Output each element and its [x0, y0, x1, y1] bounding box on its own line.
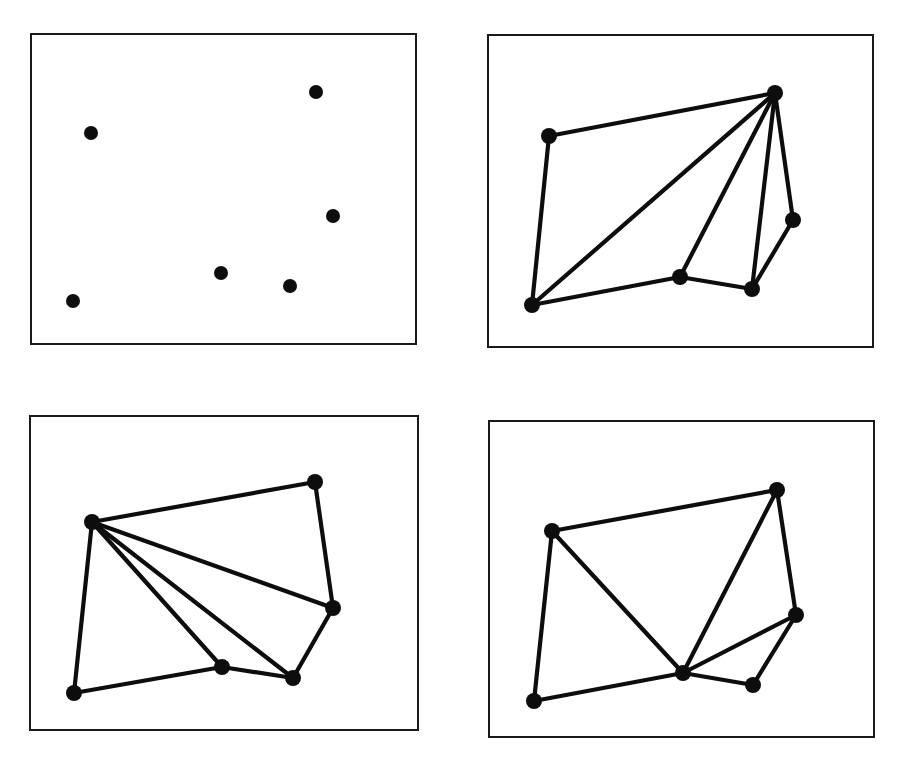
point-marker	[214, 266, 228, 280]
point-marker	[283, 279, 297, 293]
point-marker	[84, 126, 98, 140]
graph-edge	[532, 136, 549, 305]
graph-node	[66, 685, 82, 701]
graph-edge	[680, 93, 775, 277]
graph-node	[325, 600, 341, 616]
graph-edge	[534, 673, 683, 701]
panel-bottom-right	[475, 407, 888, 751]
graph-node	[767, 85, 783, 101]
graph-edge	[552, 490, 777, 531]
graph-fan-from-top-right-canvas	[474, 21, 887, 361]
graph-edge	[92, 482, 315, 522]
graph-node	[785, 212, 801, 228]
graph-edge	[549, 93, 775, 136]
panel-top-left	[17, 20, 430, 358]
graph-edge	[532, 93, 775, 305]
panel-border	[488, 35, 873, 347]
graph-edge	[293, 608, 333, 678]
graph-edge	[683, 490, 777, 673]
graph-fan-from-left-canvas	[16, 402, 432, 744]
point-marker	[309, 85, 323, 99]
graph-node	[285, 670, 301, 686]
graph-node	[544, 523, 560, 539]
graph-node	[744, 281, 760, 297]
graph-fan-from-center-canvas	[475, 407, 888, 751]
graph-node	[541, 128, 557, 144]
graph-edge	[92, 522, 293, 678]
graph-node	[307, 474, 323, 490]
graph-edge	[315, 482, 333, 608]
graph-node	[788, 607, 804, 623]
graph-edge	[552, 531, 683, 673]
point-marker-group	[66, 85, 340, 308]
graph-edge-group	[74, 482, 333, 693]
graph-edge	[680, 277, 752, 289]
graph-edge	[683, 673, 753, 685]
point-marker	[326, 209, 340, 223]
graph-node	[745, 677, 761, 693]
graph-node	[84, 514, 100, 530]
graph-node	[524, 297, 540, 313]
graph-edge	[532, 277, 680, 305]
graph-edge	[777, 490, 796, 615]
graph-node	[526, 693, 542, 709]
graph-node	[214, 659, 230, 675]
graph-edge	[534, 531, 552, 701]
graph-node	[675, 665, 691, 681]
graph-edge	[74, 522, 92, 693]
graph-edge	[74, 667, 222, 693]
graph-edge	[775, 93, 793, 220]
graph-node	[672, 269, 688, 285]
graph-edge-group	[534, 490, 796, 701]
point-marker	[66, 294, 80, 308]
graph-node	[769, 482, 785, 498]
figure-root	[0, 0, 897, 769]
graph-edge-group	[532, 93, 793, 305]
panel-top-right	[474, 21, 887, 361]
point-set-canvas	[17, 20, 430, 358]
panel-bottom-left	[16, 402, 432, 744]
panel-border	[31, 34, 416, 344]
